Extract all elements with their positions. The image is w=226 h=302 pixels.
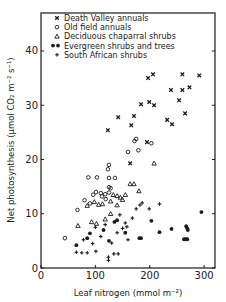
- data-point: [132, 114, 136, 118]
- data-point: [150, 141, 154, 145]
- data-point: [107, 191, 111, 195]
- data-point: [88, 202, 92, 206]
- data-point: [85, 251, 89, 255]
- data-point: [115, 194, 119, 198]
- data-point: [116, 115, 120, 119]
- legend-marker: [55, 34, 59, 38]
- data-point: [197, 74, 201, 78]
- data-point: [111, 193, 115, 197]
- data-point: [169, 88, 173, 92]
- data-point: [94, 221, 98, 225]
- data-point: [115, 203, 119, 207]
- y-tick-label: 20: [25, 154, 38, 165]
- data-point: [151, 73, 155, 77]
- data-point: [74, 243, 78, 247]
- legend-item: South African shrubs: [55, 51, 147, 60]
- legend-label: Evergreen shrubs and trees: [64, 42, 175, 51]
- y-tick-label: 0: [32, 263, 38, 274]
- data-point: [121, 227, 125, 231]
- data-point: [94, 226, 98, 230]
- data-point: [134, 207, 138, 211]
- data-point: [123, 221, 127, 225]
- data-point: [99, 235, 103, 239]
- data-point: [100, 195, 104, 199]
- legend-label: South African shrubs: [64, 51, 147, 60]
- data-point: [183, 112, 187, 116]
- data-point: [82, 238, 86, 242]
- x-tick-label: 200: [140, 270, 159, 281]
- legend-marker: [55, 53, 59, 57]
- data-point: [100, 202, 104, 206]
- scatter-chart: 0100200300 010203040 Leaf nitrogen (mmol…: [0, 0, 226, 302]
- data-point: [107, 176, 111, 180]
- legend-label: Death Valley annuals: [64, 14, 149, 23]
- series-deciduous-chaparral-shrubs: [76, 161, 157, 227]
- data-point: [137, 189, 141, 193]
- x-tick-label: 300: [195, 270, 214, 281]
- data-point: [89, 220, 93, 224]
- data-point: [95, 176, 99, 180]
- data-point: [91, 242, 95, 246]
- data-point: [152, 103, 156, 107]
- data-point: [91, 193, 95, 197]
- legend-marker: [56, 44, 60, 48]
- legend-marker: [55, 25, 59, 29]
- series-south-african-shrubs: [75, 201, 162, 262]
- data-point: [113, 176, 117, 180]
- data-point: [147, 100, 151, 104]
- data-point: [85, 236, 89, 240]
- data-point: [103, 223, 107, 227]
- data-point: [186, 228, 190, 232]
- series-old-field-annuals: [63, 137, 153, 240]
- data-point: [123, 193, 127, 197]
- data-point: [115, 218, 119, 222]
- data-point: [76, 208, 80, 212]
- data-point: [165, 118, 169, 122]
- data-point: [107, 239, 111, 243]
- data-point: [107, 255, 111, 259]
- legend-label: Old field annuals: [64, 23, 131, 32]
- y-tick-label: 40: [25, 45, 38, 56]
- data-point: [137, 148, 141, 152]
- legend-item: Deciduous chaparral shrubs: [55, 32, 176, 41]
- legend-marker: [51, 44, 55, 48]
- data-point: [158, 202, 162, 206]
- data-point: [92, 200, 96, 204]
- data-point: [170, 227, 174, 231]
- legend-item: Old field annuals: [55, 23, 131, 32]
- data-point: [177, 99, 181, 103]
- legend-item: Death Valley annuals: [55, 14, 148, 23]
- data-point: [123, 231, 127, 235]
- legend-marker: [55, 16, 59, 20]
- data-point: [146, 76, 150, 80]
- data-point: [200, 210, 204, 214]
- data-point: [181, 88, 185, 92]
- data-point: [147, 207, 151, 211]
- data-point: [83, 198, 87, 202]
- data-point: [102, 228, 106, 232]
- x-tick-label: 100: [86, 270, 105, 281]
- data-point: [88, 231, 92, 235]
- data-point: [94, 249, 98, 253]
- data-point: [126, 238, 130, 242]
- data-point: [181, 73, 185, 77]
- data-point: [131, 216, 135, 220]
- data-point: [112, 252, 116, 256]
- data-point: [140, 201, 144, 205]
- data-point: [106, 167, 110, 171]
- data-point: [152, 161, 156, 165]
- y-tick-label: 10: [25, 208, 38, 219]
- data-point: [107, 163, 111, 167]
- data-point: [138, 203, 142, 207]
- data-point: [170, 122, 174, 126]
- data-point: [63, 236, 67, 240]
- data-points: [63, 73, 203, 263]
- data-point: [85, 203, 89, 207]
- legend: Death Valley annualsOld field annualsDec…: [51, 14, 176, 60]
- y-tick-label: 30: [25, 100, 38, 111]
- data-point: [104, 197, 108, 201]
- data-point: [103, 217, 107, 221]
- series-evergreen-shrubs-and-trees: [74, 210, 203, 247]
- legend-label: Deciduous chaparral shrubs: [64, 32, 176, 41]
- x-axis: 0100200300: [38, 265, 214, 281]
